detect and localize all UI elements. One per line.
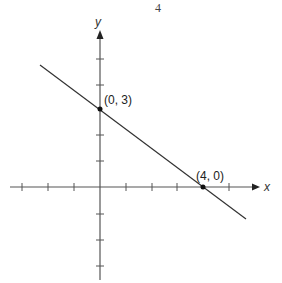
x-axis [10,183,260,191]
x-axis-arrow-icon [252,184,260,191]
point-0-3 [98,107,103,112]
point-label-0-3: (0, 3) [104,93,132,107]
page-number: 4 [155,1,161,15]
y-axis-arrow-icon [97,30,104,39]
y-axis [96,30,104,280]
x-axis-label: x [263,180,271,194]
plotted-line [40,65,246,219]
point-label-4-0: (4, 0) [196,169,224,183]
coordinate-plane: 4 x y (0, 3) (4, [0,0,282,283]
y-axis-label: y [94,15,102,29]
point-4-0 [201,185,206,190]
